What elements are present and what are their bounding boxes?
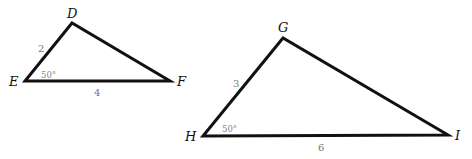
side-label-hi: 6 [318, 142, 324, 153]
side-label-gh: 3 [233, 78, 239, 89]
vertex-label-f: F [176, 74, 187, 89]
triangle-ghi: G H I 3 6 50° [184, 20, 461, 153]
vertex-label-e: E [8, 74, 19, 89]
vertex-label-h: H [184, 129, 197, 144]
side-label-ef: 4 [94, 87, 100, 98]
triangle-ghi-shape [203, 38, 448, 136]
vertex-label-i: I [454, 128, 461, 143]
triangle-def: D E F 2 4 50° [8, 6, 187, 98]
vertex-label-d: D [66, 6, 78, 21]
side-label-de: 2 [38, 43, 44, 54]
angle-label-e: 50° [41, 70, 56, 80]
angle-label-h: 50° [222, 124, 237, 134]
vertex-label-g: G [278, 20, 288, 35]
similar-triangles-diagram: D E F 2 4 50° G H I 3 6 50° [0, 0, 472, 159]
